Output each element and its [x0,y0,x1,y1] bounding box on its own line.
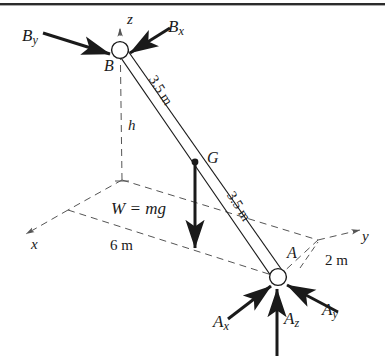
dimension-label-6m: 6 m [110,238,133,253]
force-label-By-base: B [22,26,32,45]
force-label-Az-subscript: z [294,316,299,330]
ground-plane-parallelogram [68,180,318,277]
dimension-label-2m: 2 m [325,253,348,268]
point-label-G: G [207,150,219,166]
force-label-Az: Az [284,310,299,330]
y-axis-line [318,230,360,240]
force-arrow-By [43,33,110,54]
force-label-Bx: Bx [168,18,184,38]
rod-member-BA [119,51,284,276]
force-label-Ay-base: A [322,300,332,319]
force-label-Ay-subscript: y [332,307,337,321]
force-label-Bx-base: B [168,17,178,36]
force-label-Az-base: A [284,309,294,328]
figure-canvas: z x y B A G h 3.5 m 3.5 m 6 m 2 m By Bx … [0,0,385,359]
axis-label-z: z [127,12,133,27]
joint-circle-A [270,269,287,286]
force-label-Ay: Ay [322,301,338,321]
point-label-B: B [104,58,114,74]
force-arrow-Bx [130,28,170,53]
joint-circle-B [112,42,129,59]
point-label-A: A [287,245,297,261]
axis-label-y: y [362,229,369,244]
force-label-weight: W = mg [111,200,166,217]
force-label-Ax-base: A [213,312,223,331]
x-axis-line [26,210,68,234]
force-label-Bx-subscript: x [178,24,183,38]
force-label-By: By [22,27,38,47]
dimension-label-h: h [128,118,136,133]
force-label-Ax: Ax [213,313,229,333]
dim-leader-2m [300,242,318,268]
force-label-By-subscript: y [32,33,37,47]
axis-label-x: x [31,237,38,252]
force-arrow-Ax [228,286,271,319]
force-label-Ax-subscript: x [223,319,228,333]
page-top-rule [0,3,385,5]
